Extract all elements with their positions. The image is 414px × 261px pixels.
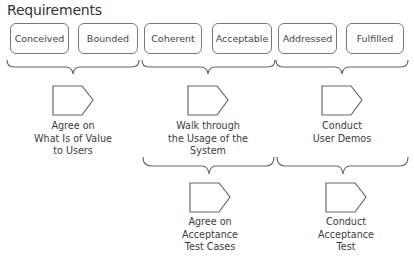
activity-icon-user-demos [322, 86, 362, 115]
activity-icon-acceptance-test [326, 183, 366, 212]
label-line: Test [286, 241, 406, 254]
label-line: Conduct [282, 120, 402, 133]
label-line: System [148, 145, 268, 158]
brace-conceived-bounded [7, 60, 139, 74]
label-line: to Users [13, 145, 133, 158]
activity-icon-walkthrough [188, 86, 228, 115]
activity-label-user-demos: Conduct User Demos [282, 120, 402, 145]
label-line: Test Cases [150, 241, 270, 254]
activity-label-walkthrough: Walk through the Usage of the System [148, 120, 268, 158]
brace-walkthrough-demos-left [143, 157, 274, 174]
label-line: What Is of Value [13, 133, 133, 146]
label-line: User Demos [282, 133, 402, 146]
activity-icon-agree-test-cases [190, 183, 230, 212]
activity-label-agree-value: Agree on What Is of Value to Users [13, 120, 133, 158]
label-line: Agree on [150, 216, 270, 229]
brace-addressed-fulfilled [276, 60, 408, 74]
brace-coherent-acceptable [142, 60, 275, 74]
label-line: Acceptance [286, 229, 406, 242]
label-line: Conduct [286, 216, 406, 229]
label-line: the Usage of the [148, 133, 268, 146]
activity-icon-agree-value [53, 86, 93, 115]
brace-walkthrough-demos-right [277, 157, 408, 174]
label-line: Acceptance [150, 229, 270, 242]
label-line: Agree on [13, 120, 133, 133]
activity-label-acceptance-test: Conduct Acceptance Test [286, 216, 406, 254]
activity-label-agree-test-cases: Agree on Acceptance Test Cases [150, 216, 270, 254]
label-line: Walk through [148, 120, 268, 133]
